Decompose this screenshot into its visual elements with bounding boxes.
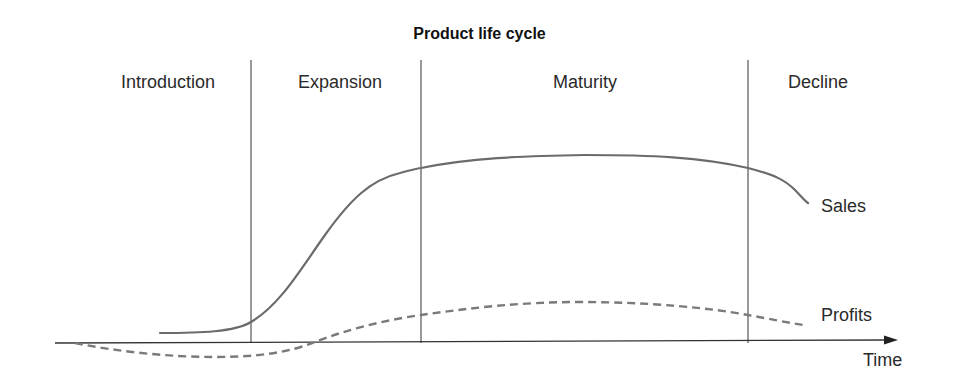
profits-line <box>75 302 803 357</box>
time-axis <box>55 340 888 343</box>
sales-label: Sales <box>821 196 866 217</box>
time-axis-label: Time <box>863 350 902 371</box>
chart-canvas <box>0 0 959 390</box>
profits-label: Profits <box>821 305 872 326</box>
axis-arrow-icon <box>884 336 898 345</box>
sales-line <box>160 155 808 333</box>
